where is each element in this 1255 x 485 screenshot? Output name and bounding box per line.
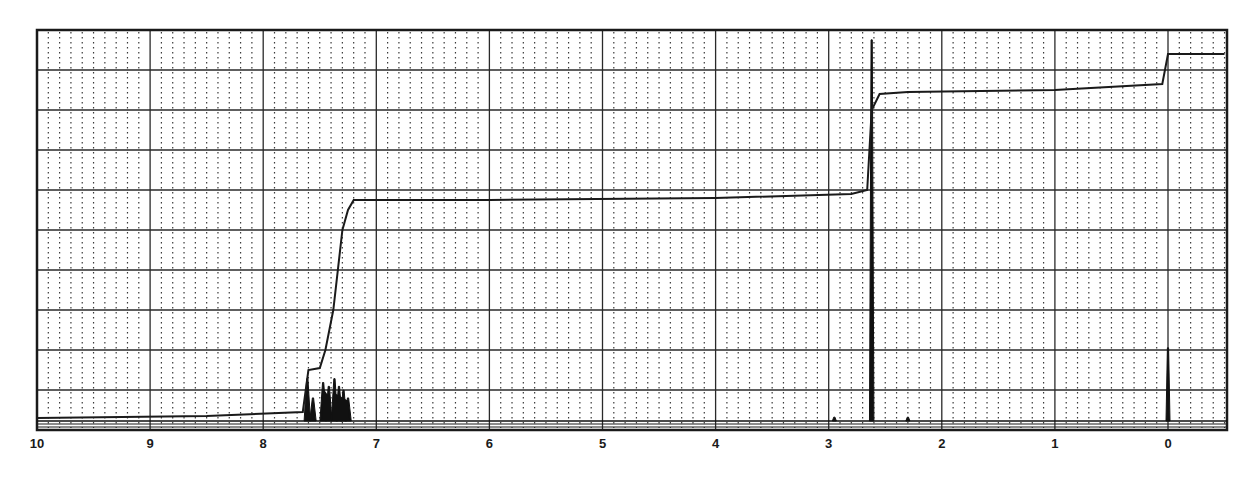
integral-curve (37, 54, 1225, 418)
x-tick-label: 5 (599, 436, 606, 451)
x-tick-label: 6 (486, 436, 493, 451)
x-tick-label: 9 (146, 436, 153, 451)
x-tick-label: 0 (1164, 436, 1171, 451)
x-tick-label: 4 (712, 436, 720, 451)
x-tick-label: 7 (373, 436, 380, 451)
x-tick-label: 10 (30, 436, 44, 451)
baseline-lines (37, 424, 1227, 427)
x-tick-label: 8 (260, 436, 267, 451)
x-tick-label: 1 (1051, 436, 1058, 451)
x-axis-tick-labels: 109876543210 (30, 436, 1172, 451)
x-tick-label: 2 (938, 436, 945, 451)
x-tick-label: 3 (825, 436, 832, 451)
nmr-spectrum-chart: 109876543210 (0, 0, 1255, 485)
